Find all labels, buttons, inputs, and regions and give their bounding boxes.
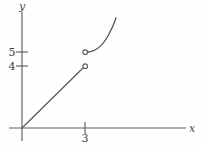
coordinate-plot: y x 5 4 3 <box>0 0 202 147</box>
x-tick-label-3: 3 <box>82 132 89 145</box>
linear-segment <box>22 67 84 128</box>
x-axis-label: x <box>189 122 196 135</box>
graph-figure: y x 5 4 3 <box>0 0 202 147</box>
rising-curve <box>88 18 116 52</box>
open-endpoint-3-4 <box>83 64 88 69</box>
y-axis-label: y <box>18 0 26 13</box>
y-tick-label-4: 4 <box>9 60 16 73</box>
y-tick-label-5: 5 <box>9 46 16 59</box>
open-endpoint-3-5 <box>83 50 88 55</box>
